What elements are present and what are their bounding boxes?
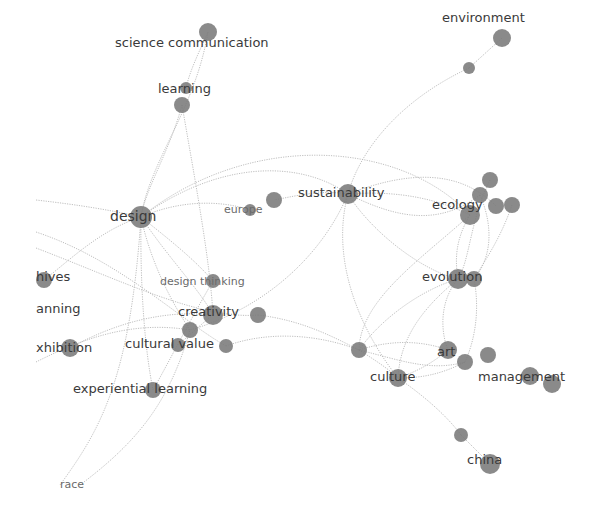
node-creativity-b[interactable] <box>250 307 266 323</box>
edge <box>398 378 461 435</box>
network-diagram: science communicationlearningenvironment… <box>0 0 614 516</box>
node-label-china: china <box>467 452 502 467</box>
left-clip-mask <box>0 0 35 516</box>
node-europe[interactable] <box>266 192 282 208</box>
node-art-c[interactable] <box>480 347 496 363</box>
node-label-environment: environment <box>442 10 525 25</box>
node-ecology-e[interactable] <box>504 197 520 213</box>
node-label-culture: culture <box>370 369 415 384</box>
node-environment-b[interactable] <box>463 62 475 74</box>
node-label-evolution: evolution <box>422 269 482 284</box>
node-label-europe: europe <box>224 203 263 216</box>
edge <box>141 217 153 390</box>
node-label-management: management <box>478 369 565 384</box>
node-label-cultural-value: cultural value <box>125 336 214 351</box>
labels-layer: science communicationlearningenvironment… <box>36 10 565 491</box>
edge <box>348 68 469 194</box>
node-ecology-d[interactable] <box>488 198 504 214</box>
node-china-b[interactable] <box>454 428 468 442</box>
node-cultural-value-b[interactable] <box>219 339 233 353</box>
edge <box>343 194 398 378</box>
node-ecology-b[interactable] <box>482 172 498 188</box>
node-label-race: race <box>60 478 84 491</box>
node-learning[interactable] <box>174 97 190 113</box>
edge <box>141 32 208 217</box>
node-label-ecology: ecology <box>432 197 483 212</box>
node-label-science-communication: science communication <box>115 35 269 50</box>
edges-layer <box>36 32 512 485</box>
node-label-design: design <box>110 208 156 224</box>
edge <box>141 105 182 217</box>
node-label-archives: hives <box>36 269 71 284</box>
node-art-b[interactable] <box>457 354 473 370</box>
edge <box>465 279 477 362</box>
node-label-creativity: creativity <box>178 304 239 319</box>
edge <box>258 315 359 350</box>
node-label-design-thinking: design thinking <box>160 275 245 288</box>
node-label-learning: learning <box>158 81 211 96</box>
edge <box>226 336 359 350</box>
node-environment[interactable] <box>493 29 511 47</box>
edge <box>443 279 458 350</box>
node-label-exhibition: xhibition <box>36 340 92 355</box>
node-hub-left-culture[interactable] <box>351 342 367 358</box>
node-label-sustainability: sustainability <box>298 185 385 200</box>
node-label-experiential-learning: experiential learning <box>73 381 207 396</box>
node-label-planning: anning <box>36 301 81 316</box>
nodes-layer <box>36 23 561 474</box>
node-label-art: art <box>437 344 455 359</box>
